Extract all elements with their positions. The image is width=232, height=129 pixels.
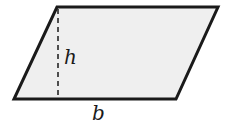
height-label: h [64, 45, 77, 69]
parallelogram-shape [14, 7, 218, 99]
base-label: b [92, 101, 105, 125]
parallelogram-diagram: h b [0, 0, 232, 129]
